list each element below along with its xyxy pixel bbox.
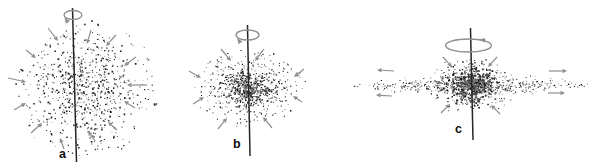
infall-arrow (31, 123, 42, 133)
rotation-axis (248, 25, 251, 156)
infall-arrow (263, 117, 272, 128)
rotation-arrow-icon (446, 37, 492, 52)
panel-label-b: b (233, 137, 241, 151)
panel-label-c: c (455, 122, 462, 136)
infall-arrow (14, 103, 26, 110)
infall-arrow (124, 101, 135, 108)
infall-arrow (221, 49, 231, 61)
infall-arrow (193, 97, 204, 104)
infall-arrow (86, 30, 91, 44)
infall-arrow (218, 118, 227, 129)
infall-arrow (488, 57, 497, 67)
infall-arrow (293, 96, 302, 102)
particle-cloud (194, 50, 306, 127)
rotation-axis (73, 8, 77, 162)
infall-arrow (443, 57, 452, 67)
rotating-cloud-collapse-figure: abc (0, 0, 601, 168)
infall-arrow (106, 35, 116, 46)
infall-arrow (189, 71, 201, 78)
outflow-arrow (549, 69, 567, 73)
panel-b: b (189, 25, 306, 156)
infall-arrow (441, 104, 450, 113)
outflow-arrow (377, 68, 394, 72)
infall-arrow (124, 57, 136, 66)
outflow-arrow (376, 93, 392, 97)
infall-arrow (491, 105, 500, 114)
infall-arrow (88, 131, 95, 141)
outflow-arrow (548, 91, 565, 95)
infall-arrow (108, 122, 117, 130)
infall-arrow (294, 69, 304, 77)
panel-label-a: a (59, 147, 67, 161)
figure-canvas: abc (0, 0, 601, 168)
panel-c: c (354, 28, 588, 140)
particle-cloud (15, 20, 157, 156)
infall-arrow (26, 50, 36, 58)
infall-arrow (8, 78, 26, 83)
panel-a: a (8, 8, 157, 162)
infall-arrow (48, 28, 58, 41)
